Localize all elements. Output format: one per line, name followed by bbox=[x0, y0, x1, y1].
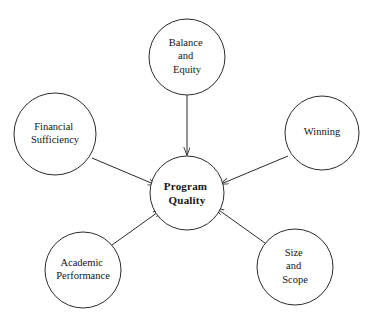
connector-size-to-center bbox=[216, 208, 265, 243]
node-program-quality[interactable]: Program Quality bbox=[150, 156, 224, 230]
node-balance-and-equity[interactable]: Balance and Equity bbox=[149, 19, 225, 95]
connector-winning-to-center bbox=[221, 156, 288, 184]
node-winning[interactable]: Winning bbox=[285, 96, 359, 170]
node-academic-performance[interactable]: Academic Performance bbox=[45, 232, 121, 308]
diagram-canvas: Balance and Equity Financial Sufficiency… bbox=[0, 0, 376, 326]
node-size-and-scope[interactable]: Size and Scope bbox=[257, 229, 333, 305]
concept-diagram: Balance and Equity Financial Sufficiency… bbox=[0, 0, 376, 326]
node-label-winning: Winning bbox=[304, 126, 341, 137]
node-financial-sufficiency[interactable]: Financial Sufficiency bbox=[14, 93, 96, 175]
connector-financial-to-center bbox=[92, 158, 156, 185]
connector-academic-to-center bbox=[112, 210, 161, 245]
